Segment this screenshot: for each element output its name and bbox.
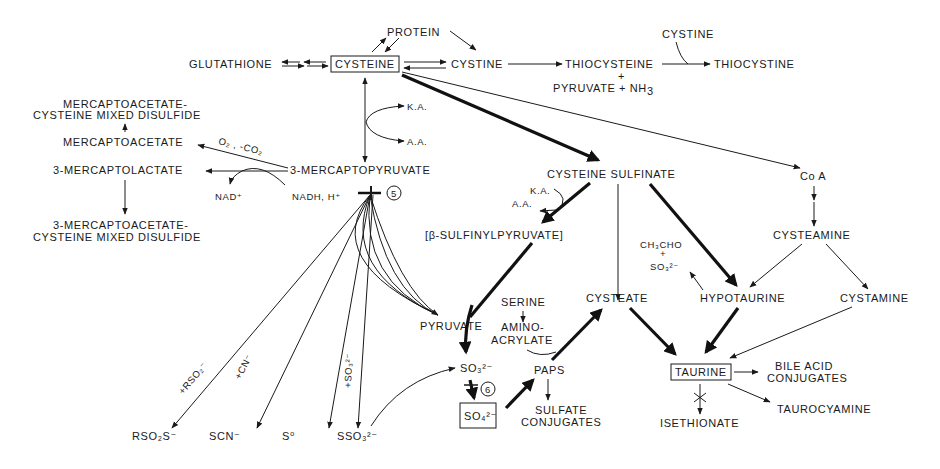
node-3-mercaptoacetate-mixed-2: CYSTEINE MIXED DISULFIDE <box>33 231 201 243</box>
node-cystine: CYSTINE <box>451 58 503 70</box>
label-aa-1: A.A. <box>407 136 427 147</box>
node-nadh: NADH, H⁺ <box>292 191 341 202</box>
node-taurine: TAURINE <box>675 366 727 378</box>
label-plus-so3: +SO₃²⁻ <box>342 353 354 388</box>
label-ka-2: K.A. <box>530 185 550 196</box>
node-so3-small: SO₃²⁻ <box>650 261 679 272</box>
cysteine-metabolism-diagram: PROTEIN GLUTATHIONE CYSTEINE CYSTINE THI… <box>0 0 940 469</box>
label-aa-2: A.A. <box>512 198 532 209</box>
node-protein: PROTEIN <box>387 26 440 38</box>
node-paps: PAPS <box>534 364 565 376</box>
node-3-mercaptolactate: 3-MERCAPTOLACTATE <box>53 164 183 176</box>
ch3cho-plus: + <box>660 248 666 259</box>
node-thiocysteine: THIOCYSTEINE <box>565 58 654 70</box>
node-serine: SERINE <box>501 296 546 308</box>
enzyme-5-label: 5 <box>391 188 397 199</box>
node-sulfate-conjugates-2: CONJUGATES <box>521 416 601 428</box>
node-bile-acid-2: CONJUGATES <box>767 372 847 384</box>
label-plus-cn: +CN⁻ <box>232 352 254 381</box>
node-cystamine: CYSTAMINE <box>840 292 909 304</box>
node-sulfinylpyruvate: [β-SULFINYLPYRUVATE] <box>425 229 563 241</box>
node-scn: SCN⁻ <box>209 430 240 442</box>
node-rso2s: RSO₂S⁻ <box>132 430 177 442</box>
label-plus-rso2: +RSO₂⁻ <box>176 360 209 397</box>
node-nad: NAD⁺ <box>215 191 242 202</box>
node-sulfate-conjugates-1: SULFATE <box>535 404 587 416</box>
node-cysteine: CYSTEINE <box>335 58 395 70</box>
label-ka-1: K.A. <box>407 101 427 112</box>
node-3-mercaptoacetate-mixed-1: 3-MERCAPTOACETATE- <box>53 219 188 231</box>
node-aminoacrylate-2: ACRYLATE <box>491 334 553 346</box>
label-o2-co2: O₂ , -CO₂ <box>218 135 265 157</box>
node-cysteate: CYSTEATE <box>586 292 648 304</box>
node-3-mercaptopyruvate: 3-MERCAPTOPYRUVATE <box>290 164 430 176</box>
node-hypotaurine: HYPOTAURINE <box>700 292 785 304</box>
node-glutathione: GLUTATHIONE <box>189 58 272 70</box>
thiocysteine-plus: + <box>618 70 625 82</box>
node-mercaptoacetate-mixed-2: CYSTEINE MIXED DISULFIDE <box>33 109 201 121</box>
node-taurocyamine: TAUROCYAMINE <box>777 403 871 415</box>
node-sulfite: SO₃²⁻ <box>460 362 493 374</box>
node-cystine-cofactor: CYSTINE <box>662 28 714 40</box>
node-mercaptoacetate: MERCAPTOACETATE <box>63 136 183 148</box>
node-thiocystine: THIOCYSTINE <box>714 58 795 70</box>
node-s0: S⁰ <box>282 430 295 442</box>
node-sso3: SSO₃²⁻ <box>337 430 378 442</box>
node-coa: Co A <box>800 170 826 182</box>
node-aminoacrylate-1: AMINO- <box>501 321 544 333</box>
node-cysteamine: CYSTEAMINE <box>773 229 851 241</box>
node-pyruvate: PYRUVATE <box>420 320 482 332</box>
node-cysteine-sulfinate: CYSTEINE SULFINATE <box>547 168 676 180</box>
enzyme-6-label: 6 <box>485 384 491 395</box>
node-pyruvate-nh3: PYRUVATE + NH3 <box>553 82 654 97</box>
node-bile-acid-1: BILE ACID <box>775 360 833 372</box>
node-isethionate: ISETHIONATE <box>660 417 739 429</box>
node-sulfate: SO₄²⁻ <box>464 410 497 422</box>
